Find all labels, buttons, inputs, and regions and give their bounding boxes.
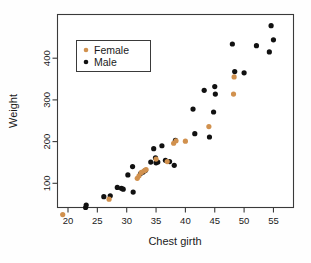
data-point-female bbox=[165, 159, 170, 164]
x-tick-label: 50 bbox=[239, 215, 250, 226]
y-tick-label: 300 bbox=[42, 92, 53, 108]
y-tick-label: 400 bbox=[42, 50, 53, 66]
data-point-female bbox=[231, 91, 236, 96]
data-point-male bbox=[148, 159, 153, 164]
data-point-male bbox=[190, 106, 195, 111]
x-tick-label: 25 bbox=[92, 215, 103, 226]
data-point-male bbox=[271, 37, 276, 42]
x-tick-label: 45 bbox=[209, 215, 220, 226]
data-point-male bbox=[202, 88, 207, 93]
data-point-female bbox=[60, 212, 65, 217]
data-point-male bbox=[267, 49, 272, 54]
legend: Female Male bbox=[77, 41, 151, 72]
data-point-male bbox=[242, 70, 247, 75]
data-point-male bbox=[254, 43, 259, 48]
data-point-male bbox=[269, 23, 274, 28]
data-point-male bbox=[151, 146, 156, 151]
legend-label-male: Male bbox=[94, 56, 117, 68]
data-point-male bbox=[230, 41, 235, 46]
data-point-female bbox=[153, 157, 158, 162]
y-axis-ticks: 100200300400 bbox=[42, 50, 58, 191]
y-axis-title: Weight bbox=[7, 94, 19, 128]
data-point-female bbox=[143, 167, 148, 172]
legend-label-female: Female bbox=[94, 44, 129, 56]
data-point-female bbox=[106, 197, 111, 202]
data-point-female bbox=[232, 74, 237, 79]
data-point-male bbox=[121, 187, 126, 192]
data-point-female bbox=[183, 139, 188, 144]
x-tick-label: 55 bbox=[268, 215, 279, 226]
data-point-male bbox=[84, 202, 89, 207]
data-point-male bbox=[130, 164, 135, 169]
data-point-male bbox=[213, 91, 218, 96]
legend-marker-female bbox=[84, 48, 89, 53]
data-point-male bbox=[212, 84, 217, 89]
data-point-male bbox=[159, 143, 164, 148]
scatter-plot-figure: 2025303540455055 100200300400 Chest girt… bbox=[0, 0, 311, 263]
x-tick-label: 35 bbox=[151, 215, 162, 226]
x-axis-title: Chest girth bbox=[148, 235, 201, 247]
data-point-male bbox=[131, 189, 136, 194]
legend-marker-male bbox=[84, 60, 89, 65]
data-point-male bbox=[192, 131, 197, 136]
x-tick-label: 40 bbox=[180, 215, 191, 226]
data-point-female bbox=[206, 124, 211, 129]
data-point-female bbox=[173, 138, 178, 143]
data-point-male bbox=[101, 194, 106, 199]
y-tick-label: 200 bbox=[42, 134, 53, 150]
data-point-male bbox=[125, 172, 130, 177]
x-tick-label: 30 bbox=[121, 215, 132, 226]
y-tick-label: 100 bbox=[42, 175, 53, 191]
data-point-male bbox=[211, 109, 216, 114]
data-point-male bbox=[207, 134, 212, 139]
x-axis-ticks: 2025303540455055 bbox=[63, 208, 279, 227]
x-tick-label: 20 bbox=[63, 215, 74, 226]
data-point-male bbox=[232, 69, 237, 74]
plot-canvas: 2025303540455055 100200300400 Chest girt… bbox=[0, 0, 311, 263]
data-point-male bbox=[172, 163, 177, 168]
